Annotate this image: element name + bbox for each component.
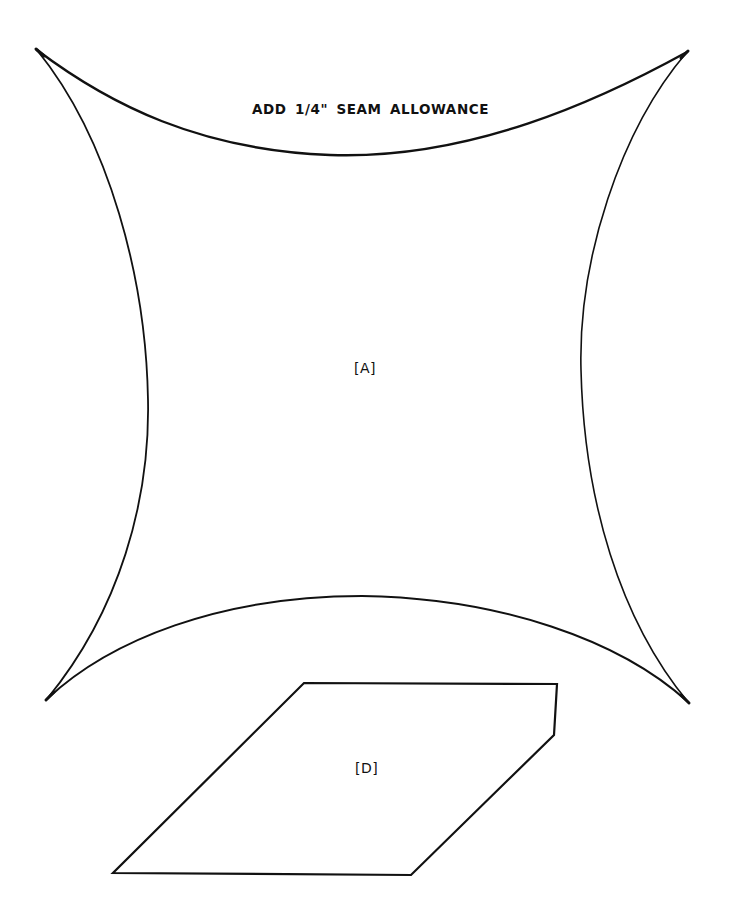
piece-a-label: [A] bbox=[354, 360, 376, 376]
piece-d-label: [D] bbox=[355, 760, 378, 776]
seam-allowance-note: ADD 1/4" SEAM ALLOWANCE bbox=[252, 101, 489, 117]
piece-a-right-edge bbox=[581, 52, 688, 702]
pattern-piece-a-outline bbox=[36, 49, 689, 703]
piece-a-corner-bottom-left bbox=[46, 692, 54, 700]
pattern-piece-d-outline bbox=[113, 683, 557, 875]
piece-a-bottom-edge bbox=[47, 596, 688, 702]
piece-a-left-edge bbox=[37, 50, 148, 699]
pattern-page: ADD 1/4" SEAM ALLOWANCE [A] [D] bbox=[0, 0, 732, 904]
piece-a-corner-bottom-right bbox=[681, 695, 689, 703]
